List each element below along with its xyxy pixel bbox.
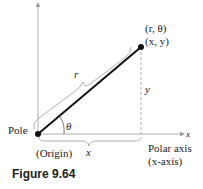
r-bracket bbox=[34, 47, 131, 129]
label-r: r bbox=[74, 68, 79, 80]
label-pole: Pole bbox=[8, 124, 28, 136]
theta-arc bbox=[60, 117, 64, 134]
label-rect-coords: (x, y) bbox=[145, 35, 169, 48]
label-x: x bbox=[85, 146, 91, 158]
label-polar-axis-sub: (x-axis) bbox=[148, 155, 183, 168]
label-axis-x: x bbox=[185, 129, 190, 139]
label-polar-axis: Polar axis bbox=[148, 142, 192, 154]
label-origin: (Origin) bbox=[36, 147, 72, 160]
label-theta: θ bbox=[66, 120, 72, 132]
label-y: y bbox=[144, 83, 150, 95]
label-polar-coords: (r, θ) bbox=[145, 22, 167, 35]
point-r-theta bbox=[138, 44, 144, 50]
pole-point bbox=[35, 131, 41, 137]
polar-diagram: (r, θ) (x, y) r y θ Pole (Origin) x x Po… bbox=[0, 0, 203, 189]
x-bracket bbox=[39, 137, 141, 146]
radius-segment bbox=[38, 47, 141, 134]
figure-caption: Figure 9.64 bbox=[12, 167, 75, 181]
